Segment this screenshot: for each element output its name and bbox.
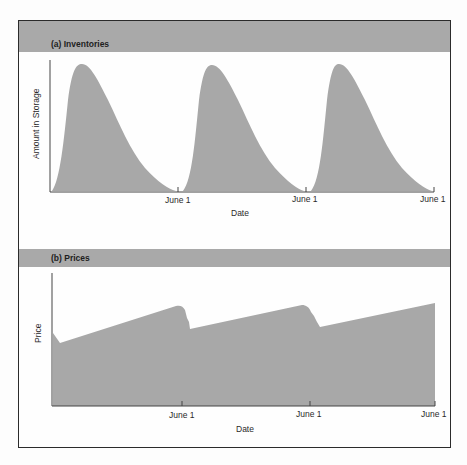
prices-tick-label-2: June 1 (296, 409, 322, 419)
inventory-cycle-2 (183, 65, 304, 191)
price-area (53, 303, 435, 406)
charts-canvas: June 1 June 1 June 1 Date Amount in Stor… (0, 0, 467, 465)
inventories-x-label: Date (231, 208, 249, 218)
inventories-chart: June 1 June 1 June 1 Date Amount in Stor… (31, 60, 446, 218)
prices-tick-label-3: June 1 (421, 409, 447, 419)
prices-y-label: Price (33, 323, 43, 343)
prices-tick-label-1: June 1 (169, 410, 195, 420)
inventories-tick-label-3: June 1 (420, 194, 446, 204)
inventory-cycle-3 (311, 64, 432, 191)
inventories-tick-label-2: June 1 (292, 194, 318, 204)
prices-x-label: Date (236, 424, 254, 434)
inventories-tick-label-1: June 1 (165, 195, 191, 205)
inventories-y-label: Amount in Storage (31, 88, 41, 159)
inventory-cycle-1 (52, 64, 176, 191)
prices-chart: June 1 June 1 June 1 Date Price (33, 273, 447, 434)
